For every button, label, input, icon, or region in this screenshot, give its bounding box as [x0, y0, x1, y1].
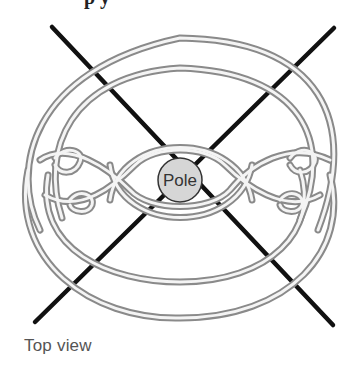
knot-diagram: Pole — [0, 0, 361, 368]
pole-label: Pole — [163, 171, 197, 190]
caption-top-view: Top view — [24, 336, 92, 356]
